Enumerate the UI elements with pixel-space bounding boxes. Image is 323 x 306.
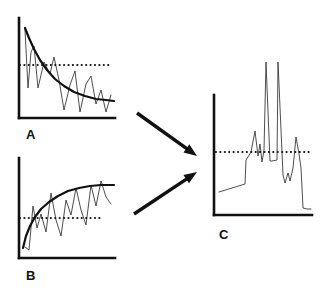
arrow-b-to-c-shaft	[134, 178, 189, 214]
panel-label-b: B	[26, 269, 35, 282]
arrow-b-to-c	[134, 172, 197, 214]
panel-label-c: C	[219, 228, 228, 241]
figure-container: A B C	[0, 0, 323, 306]
arrow-a-to-c	[137, 113, 197, 156]
panel-b	[19, 158, 115, 258]
panel-c	[214, 62, 312, 215]
panel-a	[19, 18, 115, 118]
panel-c-noisy-series	[219, 62, 311, 209]
arrow-a-to-c-shaft	[137, 113, 189, 150]
panel-b-trend-curve	[23, 185, 114, 248]
panel-label-a: A	[26, 128, 35, 141]
figure-canvas	[0, 0, 323, 306]
